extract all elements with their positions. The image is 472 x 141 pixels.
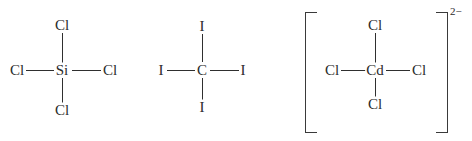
bond-si-cl-top — [62, 33, 63, 63]
bracket-left — [305, 12, 317, 133]
atom-center-si: Si — [55, 63, 70, 78]
ion-charge-label: 2− — [450, 6, 462, 17]
bond-c-i-left — [167, 70, 195, 71]
bracket-right — [436, 12, 448, 133]
atom-cl-left-1: Cl — [9, 63, 25, 78]
atom-i-right: I — [240, 63, 247, 78]
atom-cl-left-2: Cl — [324, 63, 340, 78]
atom-i-bottom: I — [199, 100, 206, 115]
bond-c-i-top — [202, 34, 203, 62]
bond-c-i-right — [210, 70, 239, 71]
bond-cd-cl-bottom — [375, 78, 376, 97]
bond-si-cl-left — [26, 70, 54, 71]
atom-cl-right-2: Cl — [411, 63, 427, 78]
chemical-structures-figure: Si Cl Cl Cl Cl C I I I I Cd Cl Cl Cl Cl … — [0, 0, 472, 141]
atom-cl-right-1: Cl — [102, 63, 118, 78]
bond-si-cl-right — [72, 70, 101, 71]
atom-cl-top-1: Cl — [54, 18, 70, 33]
bond-cd-cl-top — [375, 33, 376, 63]
atom-i-top: I — [199, 19, 206, 34]
atom-cl-bottom-1: Cl — [54, 103, 70, 118]
bond-si-cl-bottom — [62, 78, 63, 103]
bond-cd-cl-right — [386, 70, 410, 71]
atom-i-left: I — [158, 63, 165, 78]
atom-cl-top-2: Cl — [367, 18, 383, 33]
atom-center-c: C — [196, 63, 208, 78]
atom-center-cd: Cd — [365, 63, 385, 78]
bond-cd-cl-left — [341, 70, 366, 71]
atom-cl-bottom-2: Cl — [367, 97, 383, 112]
